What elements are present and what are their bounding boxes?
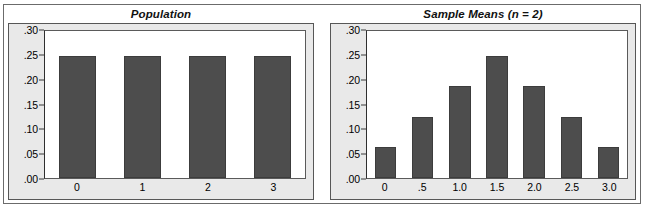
x-tick-label: 0 xyxy=(366,181,403,193)
y-tick-label: .05 xyxy=(346,148,360,160)
y-tick-label: .15 xyxy=(346,99,360,111)
plot-area-population xyxy=(44,30,306,179)
plot-area-sample-means xyxy=(366,30,628,179)
y-tick-label: .10 xyxy=(346,123,360,135)
y-tick-label: .15 xyxy=(24,99,38,111)
x-tick-label: 2.5 xyxy=(553,181,590,193)
x-axis-labels-sample-means: 0.51.01.52.02.53.0 xyxy=(366,179,628,195)
bar-series-population xyxy=(45,31,305,178)
x-tick-label: 1 xyxy=(110,181,176,193)
bar xyxy=(412,117,434,178)
bar xyxy=(189,56,227,179)
y-tick-label: .05 xyxy=(24,148,38,160)
bar xyxy=(254,56,292,179)
x-tick-label: 2.0 xyxy=(516,181,553,193)
x-tick-label: 2 xyxy=(175,181,241,193)
x-axis-labels-population: 0123 xyxy=(44,179,306,195)
bar xyxy=(598,147,620,178)
y-tick-label: .10 xyxy=(24,123,38,135)
chart-title-sample-means: Sample Means (n = 2) xyxy=(330,6,636,23)
bar-slot xyxy=(367,31,404,178)
bar-slot xyxy=(404,31,441,178)
figure-container: Population .00.05.10.15.20.25.30 0123 Sa… xyxy=(0,0,645,211)
x-tick-label: 1.5 xyxy=(478,181,515,193)
y-tick-label: .30 xyxy=(24,24,38,36)
x-tick-label: 3.0 xyxy=(591,181,628,193)
y-tick-label: .20 xyxy=(346,74,360,86)
bar-slot xyxy=(441,31,478,178)
bar-slot xyxy=(110,31,175,178)
x-tick-label: 0 xyxy=(44,181,110,193)
bar xyxy=(124,56,162,179)
bar xyxy=(59,56,97,179)
plot-grid-population: .00.05.10.15.20.25.30 0123 xyxy=(13,30,306,195)
bar xyxy=(449,86,471,178)
bar-slot xyxy=(553,31,590,178)
bar-slot xyxy=(45,31,110,178)
bar xyxy=(375,147,397,178)
bar-slot xyxy=(516,31,553,178)
y-tick-label: .20 xyxy=(24,74,38,86)
y-tick-label: .30 xyxy=(346,24,360,36)
bar-slot xyxy=(590,31,627,178)
chart-panels: Population .00.05.10.15.20.25.30 0123 Sa… xyxy=(3,4,641,204)
bar xyxy=(523,86,545,178)
chart-panel-population: Population .00.05.10.15.20.25.30 0123 xyxy=(8,6,314,200)
y-tick-label: .25 xyxy=(24,49,38,61)
chart-title-population: Population xyxy=(8,6,314,23)
y-tick-label: .00 xyxy=(346,173,360,185)
chart-panel-sample-means: Sample Means (n = 2) .00.05.10.15.20.25.… xyxy=(330,6,636,200)
y-tick-label: .25 xyxy=(346,49,360,61)
x-tick-label: 3 xyxy=(241,181,307,193)
bar xyxy=(486,56,508,179)
bar-slot xyxy=(175,31,240,178)
y-tick-label: .00 xyxy=(24,173,38,185)
y-axis-labels-population: .00.05.10.15.20.25.30 xyxy=(13,30,39,179)
plot-box-population: .00.05.10.15.20.25.30 0123 xyxy=(8,23,314,200)
y-axis-labels-sample-means: .00.05.10.15.20.25.30 xyxy=(335,30,361,179)
bar xyxy=(561,117,583,178)
x-tick-label: 1.0 xyxy=(441,181,478,193)
bar-slot xyxy=(240,31,305,178)
plot-grid-sample-means: .00.05.10.15.20.25.30 0.51.01.52.02.53.0 xyxy=(335,30,628,195)
x-tick-label: .5 xyxy=(403,181,440,193)
plot-box-sample-means: .00.05.10.15.20.25.30 0.51.01.52.02.53.0 xyxy=(330,23,636,200)
bar-slot xyxy=(478,31,515,178)
bar-series-sample-means xyxy=(367,31,627,178)
